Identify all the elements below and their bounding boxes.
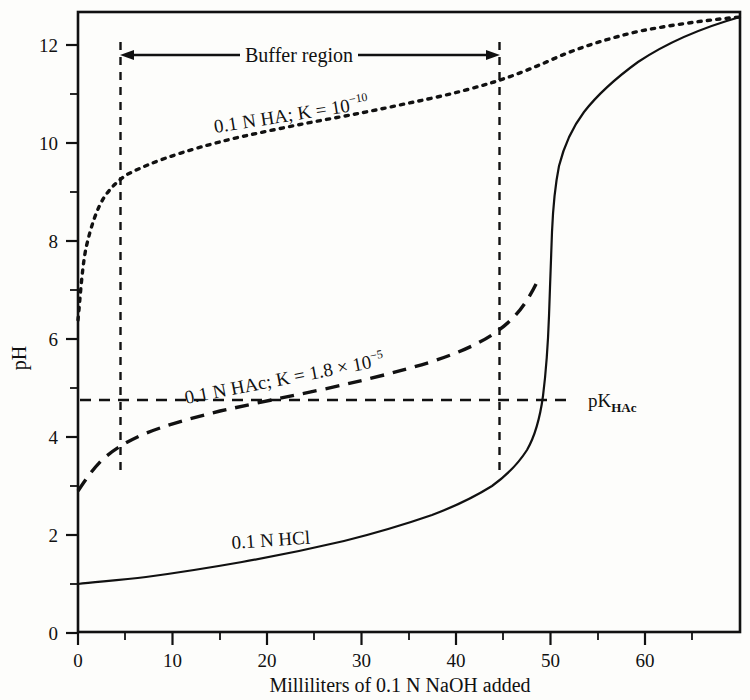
- chart-page: 0 2 4 6 8 10 12 pH 0 10 20 30: [0, 0, 750, 700]
- buffer-arrow-right-head: [486, 50, 500, 60]
- x-tick-label-30: 30: [352, 650, 371, 671]
- x-tick-label-0: 0: [73, 650, 83, 671]
- x-axis-title: Milliliters of 0.1 N NaOH added: [269, 674, 530, 696]
- x-tick-label-40: 40: [447, 650, 466, 671]
- y-tick-label-4: 4: [49, 427, 59, 448]
- hac-curve: [78, 280, 538, 491]
- y-tick-label-10: 10: [39, 133, 58, 154]
- ha-curve: [78, 17, 740, 320]
- y-axis-title: pH: [8, 346, 31, 370]
- ha-curve-label: 0.1 N HA; K = 10−10: [212, 90, 370, 137]
- y-tick-label-0: 0: [49, 623, 59, 644]
- buffer-region-annotation: Buffer region: [120, 44, 500, 67]
- x-tick-label-20: 20: [258, 650, 277, 671]
- titration-curve-chart: 0 2 4 6 8 10 12 pH 0 10 20 30: [0, 0, 750, 700]
- y-tick-label-12: 12: [39, 35, 58, 56]
- x-axis-ticks: [78, 632, 692, 645]
- pk-hac-label: pKHAc: [588, 390, 637, 415]
- hcl-curve-label: 0.1 N HCl: [231, 527, 311, 553]
- y-tick-label-2: 2: [49, 525, 59, 546]
- y-tick-label-8: 8: [49, 231, 59, 252]
- x-tick-label-60: 60: [636, 650, 655, 671]
- x-tick-label-50: 50: [541, 650, 560, 671]
- y-tick-label-6: 6: [49, 329, 59, 350]
- buffer-arrow-left-head: [120, 50, 134, 60]
- buffer-region-label: Buffer region: [245, 44, 353, 67]
- plot-frame: [78, 12, 740, 632]
- x-tick-label-10: 10: [163, 650, 182, 671]
- y-axis-ticks: [66, 45, 78, 633]
